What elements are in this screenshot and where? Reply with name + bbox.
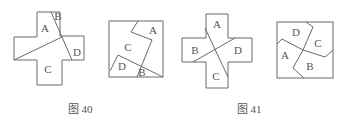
- piece-label-b: B: [54, 10, 61, 22]
- piece-label-d: D: [292, 26, 300, 38]
- cut-line-2: [193, 38, 235, 62]
- piece-label-d: D: [73, 46, 81, 58]
- piece-label-c: C: [124, 41, 131, 53]
- figure-caption: 图 40: [68, 103, 93, 115]
- piece-label-b: B: [306, 60, 313, 72]
- piece-label-c: C: [44, 63, 51, 75]
- figure-41: A B D C D C A B 图 41: [182, 14, 333, 115]
- figure-40-square: A C D B: [109, 21, 163, 78]
- piece-label-d: D: [234, 44, 242, 56]
- cut-line-long: [14, 37, 62, 60]
- piece-label-c: C: [314, 37, 321, 49]
- piece-label-b: B: [191, 44, 198, 56]
- piece-label-a: A: [41, 22, 49, 34]
- dissection-diagram: A B D C A C D B 图 40 A B D C: [0, 0, 341, 123]
- piece-label-a: A: [213, 18, 221, 30]
- piece-label-c: C: [212, 70, 219, 82]
- piece-label-b: B: [138, 66, 145, 78]
- cut-line-dc: [303, 22, 313, 50]
- figure-41-cross: A B D C: [182, 14, 252, 88]
- piece-label-a: A: [149, 24, 157, 36]
- figure-41-square: D C A B: [277, 22, 333, 78]
- cut-line-cb: [303, 50, 333, 57]
- figure-caption: 图 41: [237, 103, 262, 115]
- figure-40: A B D C A C D B 图 40: [14, 10, 163, 115]
- piece-label-a: A: [281, 49, 289, 61]
- cut-line-ba: [293, 50, 304, 78]
- piece-label-d: D: [118, 60, 126, 72]
- figure-40-cross: A B D C: [14, 10, 84, 85]
